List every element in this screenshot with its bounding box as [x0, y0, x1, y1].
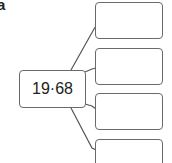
answer-box-2[interactable] [95, 48, 163, 85]
center-number: 19·68 [32, 80, 73, 98]
answer-box-3[interactable] [95, 93, 163, 130]
answer-box-1[interactable] [95, 2, 163, 39]
center-number-box: 19·68 [19, 70, 86, 108]
answer-box-4[interactable] [95, 139, 163, 163]
